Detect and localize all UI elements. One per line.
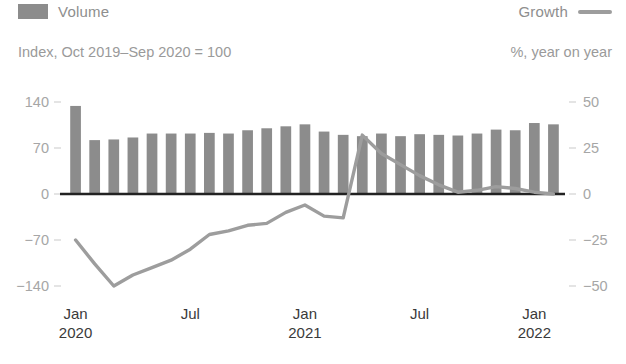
x-axis-month: Jan (494, 304, 574, 323)
x-axis-year: 2020 (36, 323, 116, 342)
growth-line-icon (578, 10, 612, 14)
x-axis-month: Jan (265, 304, 345, 323)
y-axis-tick-label: −140 (16, 278, 49, 294)
y2-axis-tick-label: −50 (583, 278, 608, 294)
y-axis-tick-label: −70 (24, 232, 49, 248)
bar (147, 134, 158, 194)
bar (242, 130, 253, 194)
x-axis-tick-label: Jul (380, 304, 460, 323)
bar (204, 133, 215, 194)
legend-item-volume: Volume (18, 3, 109, 20)
bar (108, 139, 119, 194)
y-axis-tick-label: 70 (33, 140, 49, 156)
y2-axis-tick-label: −25 (583, 232, 608, 248)
bar (70, 106, 81, 194)
bar (376, 134, 387, 194)
bar (280, 126, 291, 194)
bar (166, 134, 177, 194)
chart-root: Volume Growth Index, Oct 2019–Sep 2020 =… (0, 0, 626, 364)
legend-label-volume: Volume (58, 3, 109, 20)
left-axis-units: Index, Oct 2019–Sep 2020 = 100 (18, 44, 231, 60)
legend-item-growth: Growth (518, 3, 612, 20)
bar (223, 134, 234, 194)
bar (261, 128, 272, 194)
bar (338, 135, 349, 194)
volume-swatch-icon (18, 4, 48, 19)
x-axis-month: Jan (36, 304, 116, 323)
y-axis-tick-label: 0 (41, 186, 49, 202)
legend-label-growth: Growth (518, 3, 568, 20)
x-axis-year: 2022 (494, 323, 574, 342)
bar (529, 123, 540, 194)
x-axis-year: 2021 (265, 323, 345, 342)
x-axis-labels: Jan2020JulJan2021JulJan2022 (0, 300, 626, 360)
x-axis-tick-label: Jan2020 (36, 304, 116, 342)
bar (453, 136, 464, 194)
bar (548, 124, 559, 194)
right-axis-units: %, year on year (510, 44, 612, 60)
bar (472, 134, 483, 194)
bar (89, 140, 100, 194)
y2-axis-tick-label: 0 (583, 186, 591, 202)
bar (319, 132, 330, 194)
bar (128, 137, 139, 194)
x-axis-tick-label: Jan2022 (494, 304, 574, 342)
bar (414, 134, 425, 194)
y2-axis-tick-label: 50 (583, 94, 599, 110)
y2-axis-tick-label: 25 (583, 140, 599, 156)
x-axis-tick-label: Jan2021 (265, 304, 345, 342)
x-axis-tick-label: Jul (150, 304, 230, 323)
bar (510, 130, 521, 194)
y-axis-tick-label: 140 (25, 94, 49, 110)
bar (185, 134, 196, 194)
plot-area: 140700−70−14050250−25−50 (0, 80, 626, 305)
x-axis-month: Jul (380, 304, 460, 323)
bar (491, 130, 502, 194)
chart-canvas: 140700−70−14050250−25−50 (0, 80, 626, 305)
x-axis-month: Jul (150, 304, 230, 323)
chart-legend: Volume Growth (0, 0, 626, 26)
bar (300, 124, 311, 194)
